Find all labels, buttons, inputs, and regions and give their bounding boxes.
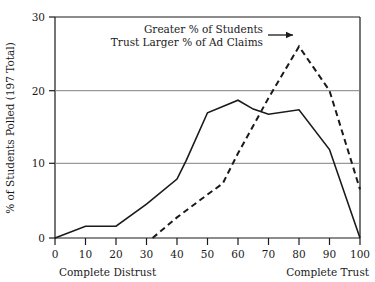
gridlines <box>55 91 360 164</box>
annotation-line-1: Greater % of Students <box>144 23 263 35</box>
y-axis-title: % of Students Polled (197 Total) <box>4 42 16 214</box>
annotation-line-2: Trust Larger % of Ad Claims <box>111 36 263 48</box>
dashed-series <box>153 46 360 238</box>
x-tick-label-30: 30 <box>140 248 153 260</box>
x-tick-label-70: 70 <box>262 248 275 260</box>
x-tick-label-0: 0 <box>52 248 59 260</box>
y-tick-label-10: 10 <box>32 157 45 169</box>
y-axis-ticks <box>49 17 55 238</box>
right-arrow-icon <box>268 32 293 38</box>
solid-series <box>55 100 360 238</box>
x-tick-label-80: 80 <box>292 248 305 260</box>
chart-container: 30 20 10 0 0 10 20 30 40 50 60 70 80 90 … <box>0 0 375 282</box>
x-tick-label-60: 60 <box>231 248 244 260</box>
trust-annotation: Greater % of Students Trust Larger % of … <box>111 23 293 48</box>
x-tick-label-90: 90 <box>323 248 336 260</box>
x-axis-caption-left: Complete Distrust <box>59 266 157 278</box>
data-series-layer <box>55 46 360 238</box>
x-tick-label-10: 10 <box>79 248 92 260</box>
x-tick-label-100: 100 <box>350 248 370 260</box>
x-tick-label-40: 40 <box>170 248 183 260</box>
x-tick-label-20: 20 <box>109 248 122 260</box>
x-axis-caption-right: Complete Trust <box>286 266 370 278</box>
y-tick-label-0: 0 <box>38 232 45 244</box>
y-tick-label-20: 20 <box>32 85 45 97</box>
y-tick-label-30: 30 <box>32 11 45 23</box>
plot-frame <box>55 17 360 238</box>
x-tick-label-50: 50 <box>201 248 214 260</box>
chart-plot-svg: 30 20 10 0 0 10 20 30 40 50 60 70 80 90 … <box>0 0 375 282</box>
x-axis-ticks <box>55 238 360 245</box>
